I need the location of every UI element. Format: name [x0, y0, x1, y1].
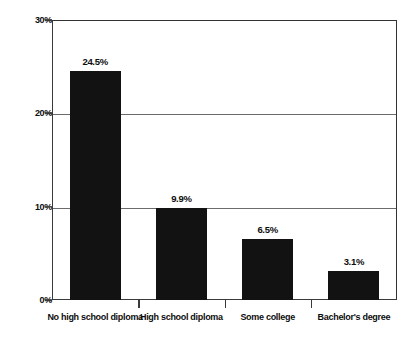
bar	[70, 71, 121, 300]
y-axis-tick-mark	[45, 113, 52, 115]
x-axis-tick-label: No high school diploma	[47, 312, 142, 322]
x-axis-tick-mark	[311, 300, 313, 308]
chart-screenshot: 0%10%20%30% 24.5%9.9%6.5%3.1% No high sc…	[0, 0, 408, 339]
x-axis-tick-mark	[138, 300, 140, 308]
bar	[242, 239, 293, 300]
y-axis-tick-mark	[45, 299, 52, 301]
x-axis-tick-label: High school diploma	[140, 312, 223, 322]
y-axis: 0%10%20%30%	[0, 0, 52, 339]
x-axis-tick-label: Some college	[240, 312, 294, 322]
bar-value-label: 6.5%	[257, 224, 277, 235]
x-axis-tick-label: Bachelor's degree	[318, 312, 391, 322]
x-axis-tick-mark	[225, 300, 227, 308]
bar-value-label: 3.1%	[344, 256, 364, 267]
y-axis-tick-mark	[45, 206, 52, 208]
bar-value-label: 9.9%	[171, 193, 191, 204]
bar-value-label: 24.5%	[82, 56, 107, 67]
y-axis-tick-mark	[45, 19, 52, 21]
bar	[328, 271, 379, 300]
bar	[156, 208, 207, 300]
